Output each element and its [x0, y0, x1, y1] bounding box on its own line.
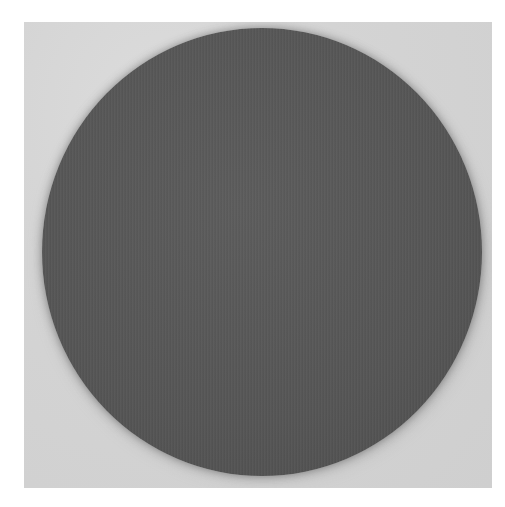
photo: [24, 22, 492, 488]
gray-disc: [42, 28, 482, 476]
image-canvas: [0, 0, 505, 507]
